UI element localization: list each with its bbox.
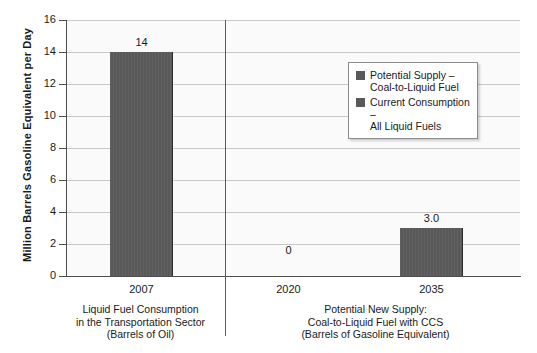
legend-label-potential-supply-line1: Potential Supply – xyxy=(370,69,455,81)
group-caption-left-line2: in the Transportation Sector xyxy=(76,316,205,328)
y-tick-8 xyxy=(59,148,67,149)
y-tick-label-4: 4 xyxy=(16,206,56,217)
group-caption-left-line3: (Barrels of Oil) xyxy=(107,328,175,340)
group-divider xyxy=(225,20,226,336)
y-tick-label-12: 12 xyxy=(16,78,56,89)
y-tick-label-14: 14 xyxy=(16,46,56,57)
gridline-16 xyxy=(66,20,520,21)
x-axis-label-2035: 2035 xyxy=(400,283,463,296)
group-caption-right-line2: Coal-to-Liquid Fuel with CCS xyxy=(308,316,443,328)
y-tick-0 xyxy=(59,276,67,277)
x-axis-line xyxy=(66,276,521,277)
y-tick-label-16: 16 xyxy=(16,14,56,25)
y-tick-label-2: 2 xyxy=(16,238,56,249)
group-caption-right-line1: Potential New Supply: xyxy=(324,303,427,315)
y-tick-label-0: 0 xyxy=(16,270,56,281)
bar-2007 xyxy=(110,52,173,276)
group-caption-left: Liquid Fuel Consumption in the Transport… xyxy=(58,303,223,341)
x-axis-label-2020: 2020 xyxy=(257,283,320,296)
y-tick-label-8: 8 xyxy=(16,142,56,153)
bar-value-2035: 3.0 xyxy=(400,212,463,224)
group-caption-right-line3: (Barrels of Gasoline Equivalent) xyxy=(301,328,449,340)
legend-item-potential-supply: Potential Supply – Coal-to-Liquid Fuel xyxy=(356,69,470,93)
bar-2035 xyxy=(400,228,463,276)
y-tick-6 xyxy=(59,180,67,181)
legend-label-potential-supply: Potential Supply – Coal-to-Liquid Fuel xyxy=(370,69,459,93)
legend-label-potential-supply-line2: Coal-to-Liquid Fuel xyxy=(370,81,459,93)
y-tick-4 xyxy=(59,212,67,213)
legend-label-current-consumption: Current Consumption – All Liquid Fuels xyxy=(370,96,470,132)
legend-label-current-consumption-line1: Current Consumption – xyxy=(370,96,470,120)
y-tick-label-6: 6 xyxy=(16,174,56,185)
y-tick-12 xyxy=(59,84,67,85)
y-tick-2 xyxy=(59,244,67,245)
legend-label-current-consumption-line2: All Liquid Fuels xyxy=(370,120,441,132)
group-caption-right: Potential New Supply: Coal-to-Liquid Fue… xyxy=(228,303,523,341)
bar-chart: Million Barrels Gasoline Equivalent per … xyxy=(0,0,537,353)
bar-value-2020: 0 xyxy=(257,244,320,256)
bar-value-2007: 14 xyxy=(110,36,173,48)
legend-swatch-icon-potential-supply xyxy=(356,71,365,80)
y-tick-label-10: 10 xyxy=(16,110,56,121)
x-axis-label-2007: 2007 xyxy=(110,283,173,296)
legend-swatch-icon-current-consumption xyxy=(356,98,365,107)
y-tick-10 xyxy=(59,116,67,117)
y-tick-14 xyxy=(59,52,67,53)
group-caption-left-line1: Liquid Fuel Consumption xyxy=(82,303,198,315)
chart-legend: Potential Supply – Coal-to-Liquid Fuel C… xyxy=(348,62,478,139)
y-tick-16 xyxy=(59,20,67,21)
legend-item-current-consumption: Current Consumption – All Liquid Fuels xyxy=(356,96,470,132)
